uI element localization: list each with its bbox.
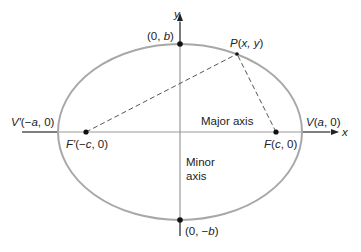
point-bottom-vertex xyxy=(177,217,183,223)
point-left-focus xyxy=(83,129,88,134)
label-right-focus: F(c, 0) xyxy=(264,138,297,150)
label-right-vertex: V(a, 0) xyxy=(306,116,341,128)
label-bottom-vertex: (0, −b) xyxy=(185,225,219,237)
ellipse-diagram: y x (0, b) (0, −b) V′(−a, 0) V(a, 0) F′(… xyxy=(0,0,361,252)
point-top-vertex xyxy=(177,41,183,47)
point-right-focus xyxy=(273,129,278,134)
point-p xyxy=(235,52,239,56)
label-minor-axis-line2: axis xyxy=(186,170,207,182)
label-point-p: P(x, y) xyxy=(230,37,263,49)
label-minor-axis-line1: Minor xyxy=(186,156,215,168)
label-top-vertex: (0, b) xyxy=(147,30,174,42)
x-axis-label: x xyxy=(341,126,349,138)
label-left-vertex: V′(−a, 0) xyxy=(11,116,55,128)
label-major-axis: Major axis xyxy=(201,115,254,127)
label-left-focus: F′(−c, 0) xyxy=(66,138,108,150)
